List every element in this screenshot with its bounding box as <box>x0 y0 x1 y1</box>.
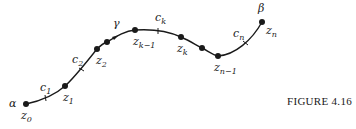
label-cn: cn <box>233 27 244 42</box>
label-z0: z0 <box>20 109 32 124</box>
label-z2: z2 <box>95 54 107 69</box>
point-intermediate <box>199 45 205 51</box>
point-zn <box>259 19 265 25</box>
label-gamma: γ <box>113 17 120 30</box>
contour-figure: α β γ z0 z1 z2 zk−1 zk zn−1 zn c1 c2 ck … <box>0 0 356 129</box>
point-z2 <box>94 46 100 52</box>
figure-caption: FIGURE 4.16 <box>287 95 352 107</box>
direction-arrow-icon <box>112 35 119 40</box>
label-zn-1: zn−1 <box>213 61 237 76</box>
label-ck: ck <box>155 11 166 26</box>
label-c2: c2 <box>72 53 83 68</box>
points <box>23 19 265 107</box>
label-alpha: α <box>9 97 17 110</box>
contour-curve <box>26 22 262 104</box>
label-c1: c1 <box>40 81 51 96</box>
label-z1: z1 <box>62 91 74 106</box>
point-zk-1 <box>132 27 138 33</box>
point-z0 <box>23 101 29 107</box>
label-zk: zk <box>176 42 188 57</box>
point-intermediate <box>104 39 110 45</box>
point-zk <box>178 34 184 40</box>
point-z1 <box>62 83 68 89</box>
label-beta: β <box>257 2 264 15</box>
point-zn-1 <box>215 53 221 59</box>
label-zk-1: zk−1 <box>132 35 155 50</box>
label-zn: zn <box>265 24 277 39</box>
